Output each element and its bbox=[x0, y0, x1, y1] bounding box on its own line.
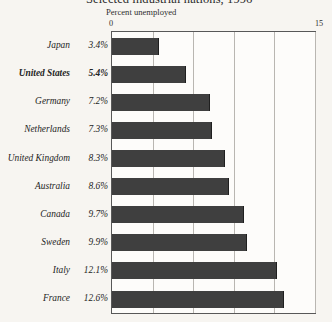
category-label-row: Japan3.4% bbox=[0, 31, 108, 59]
category-value: 7.3% bbox=[74, 124, 108, 134]
category-name: France bbox=[43, 293, 70, 303]
category-name: Netherlands bbox=[24, 124, 70, 134]
bar-row bbox=[112, 229, 315, 257]
category-name: United Kingdom bbox=[8, 153, 70, 163]
category-label-row: United States5.4% bbox=[0, 59, 108, 87]
category-value: 8.6% bbox=[74, 181, 108, 191]
category-value: 3.4% bbox=[74, 40, 108, 50]
bar bbox=[112, 178, 229, 195]
category-name: Sweden bbox=[41, 237, 70, 247]
category-label-row: Sweden9.9% bbox=[0, 228, 108, 256]
chart-title: Selected industrial nations, 1996 bbox=[86, 0, 326, 7]
bar-row bbox=[112, 173, 315, 201]
category-name: United States bbox=[19, 68, 70, 78]
bar bbox=[112, 122, 212, 139]
bar bbox=[112, 262, 277, 279]
bar bbox=[112, 291, 284, 308]
category-label-column: Japan3.4%United States5.4%Germany7.2%Net… bbox=[0, 31, 108, 314]
category-label-row: Italy12.1% bbox=[0, 256, 108, 284]
category-value: 9.9% bbox=[74, 237, 108, 247]
bar bbox=[112, 150, 225, 167]
chart-page: Selected industrial nations, 1996 Percen… bbox=[0, 0, 332, 322]
chart-subtitle: Percent unemployed bbox=[106, 7, 176, 17]
category-value: 9.7% bbox=[74, 209, 108, 219]
bar-row bbox=[112, 285, 315, 313]
bar-row bbox=[112, 144, 315, 172]
bar bbox=[112, 66, 186, 83]
category-name: Japan bbox=[47, 40, 70, 50]
bar-row bbox=[112, 201, 315, 229]
plot-area bbox=[111, 31, 316, 314]
category-label-row: Germany7.2% bbox=[0, 87, 108, 115]
category-name: Italy bbox=[53, 265, 70, 275]
category-value: 12.6% bbox=[74, 293, 108, 303]
bar-row bbox=[112, 60, 315, 88]
category-value: 5.4% bbox=[74, 68, 108, 78]
bar-row bbox=[112, 257, 315, 285]
x-axis-min-tick-label: 0 bbox=[109, 19, 113, 28]
x-axis-max-tick-label: 15 bbox=[315, 19, 323, 28]
category-value: 7.2% bbox=[74, 96, 108, 106]
category-value: 12.1% bbox=[74, 265, 108, 275]
bar bbox=[112, 94, 210, 111]
bar bbox=[112, 234, 247, 251]
category-label-row: Canada9.7% bbox=[0, 200, 108, 228]
bar-row bbox=[112, 32, 315, 60]
category-value: 8.3% bbox=[74, 153, 108, 163]
bar-row bbox=[112, 88, 315, 116]
bar-row bbox=[112, 116, 315, 144]
bar-series bbox=[112, 32, 315, 313]
category-label-row: United Kingdom8.3% bbox=[0, 143, 108, 171]
bar bbox=[112, 206, 244, 223]
category-name: Australia bbox=[35, 181, 70, 191]
category-label-row: France12.6% bbox=[0, 284, 108, 312]
category-name: Germany bbox=[35, 96, 70, 106]
category-name: Canada bbox=[40, 209, 70, 219]
gridline-15 bbox=[315, 32, 316, 313]
bar bbox=[112, 38, 159, 55]
category-label-row: Australia8.6% bbox=[0, 172, 108, 200]
category-label-row: Netherlands7.3% bbox=[0, 115, 108, 143]
